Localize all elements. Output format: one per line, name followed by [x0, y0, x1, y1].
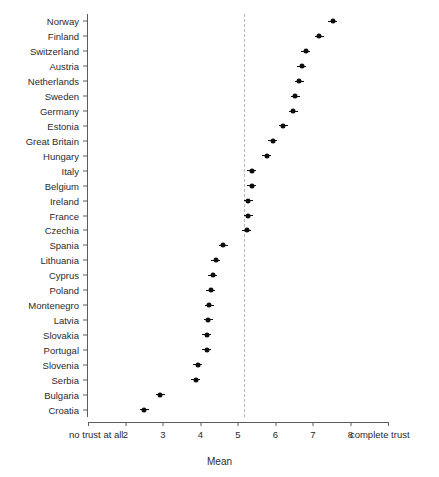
y-axis-tick	[83, 111, 87, 112]
data-point	[206, 317, 211, 322]
y-axis-label: Estonia	[47, 120, 79, 131]
x-axis-left-endcap-label: no trust at all	[69, 429, 123, 440]
y-axis-label: Slovenia	[43, 359, 79, 370]
y-axis-label: Ireland	[50, 195, 79, 206]
data-point	[213, 258, 218, 263]
y-axis-tick	[83, 305, 87, 306]
y-axis-tick	[83, 409, 87, 410]
y-axis-tick	[83, 319, 87, 320]
plot-area	[88, 14, 388, 417]
data-point	[207, 303, 212, 308]
y-axis-tick	[83, 394, 87, 395]
data-point	[193, 377, 198, 382]
y-axis-label: Poland	[49, 285, 79, 296]
y-axis-label: Slovakia	[43, 329, 79, 340]
y-axis-tick	[83, 290, 87, 291]
data-point	[244, 228, 249, 233]
y-axis-tick	[83, 260, 87, 261]
data-point	[291, 109, 296, 114]
x-axis-title: Mean	[0, 456, 439, 467]
x-axis-tick-label: 5	[235, 429, 240, 440]
y-axis-label: France	[49, 210, 79, 221]
data-point	[221, 243, 226, 248]
y-axis-label: Serbia	[52, 374, 79, 385]
y-axis-tick	[83, 215, 87, 216]
x-axis-cap-right	[388, 422, 389, 426]
y-axis-tick	[83, 36, 87, 37]
data-point	[297, 79, 302, 84]
y-axis-label: Bulgaria	[44, 389, 79, 400]
data-point	[299, 64, 304, 69]
y-axis-label: Switzerland	[30, 46, 79, 57]
y-axis-label: Czechia	[45, 225, 79, 236]
y-axis-label: Netherlands	[28, 76, 79, 87]
y-axis-label: Latvia	[54, 314, 79, 325]
y-axis-label: Finland	[48, 31, 79, 42]
x-axis-tick-label: 4	[198, 429, 203, 440]
y-axis-tick	[83, 125, 87, 126]
data-point	[195, 362, 200, 367]
x-axis-tick-label: 2	[123, 429, 128, 440]
data-point	[142, 407, 147, 412]
y-axis-label: Italy	[62, 165, 79, 176]
y-axis-tick	[83, 349, 87, 350]
x-axis-tick	[350, 422, 351, 426]
x-axis-tick	[275, 422, 276, 426]
data-point	[210, 273, 215, 278]
data-point	[249, 183, 254, 188]
y-axis-tick	[83, 185, 87, 186]
y-axis-label: Austria	[49, 61, 79, 72]
y-axis-line	[87, 14, 88, 417]
y-axis-label: Great Britain	[26, 135, 79, 146]
x-axis-line	[88, 422, 389, 423]
y-axis-label: Norway	[47, 16, 79, 27]
y-axis-label: Germany	[40, 106, 79, 117]
y-axis-label: Cyprus	[49, 270, 79, 281]
x-axis-cap-left	[88, 422, 89, 426]
y-axis-tick	[83, 155, 87, 156]
x-axis-tick	[313, 422, 314, 426]
y-axis-label: Sweden	[45, 91, 79, 102]
y-axis-tick	[83, 230, 87, 231]
y-axis-tick	[83, 140, 87, 141]
x-axis-tick	[200, 422, 201, 426]
y-axis-label: Hungary	[43, 150, 79, 161]
data-point	[246, 198, 251, 203]
y-axis-tick	[83, 379, 87, 380]
y-axis-label: Spania	[49, 240, 79, 251]
x-axis-tick-label: 6	[273, 429, 278, 440]
data-point	[249, 168, 254, 173]
x-axis-tick-label: 7	[310, 429, 315, 440]
y-axis-tick	[83, 334, 87, 335]
y-axis-tick	[83, 200, 87, 201]
y-axis-label: Belgium	[45, 180, 79, 191]
y-axis-label: Lithuania	[40, 255, 79, 266]
x-axis-tick	[238, 422, 239, 426]
data-point	[204, 347, 209, 352]
data-point	[270, 138, 275, 143]
y-axis-label: Croatia	[48, 404, 79, 415]
data-point	[281, 123, 286, 128]
y-axis-tick	[83, 51, 87, 52]
x-axis-right-endcap-label: complete trust	[350, 429, 410, 440]
data-point	[264, 153, 269, 158]
data-point	[317, 34, 322, 39]
y-axis-label: Montenegro	[28, 300, 79, 311]
data-point	[246, 213, 251, 218]
y-axis-tick	[83, 275, 87, 276]
data-point	[158, 392, 163, 397]
y-axis-tick	[83, 21, 87, 22]
x-axis-tick-label: 3	[160, 429, 165, 440]
y-axis-label: Portugal	[44, 344, 79, 355]
data-point	[303, 49, 308, 54]
y-axis-tick	[83, 66, 87, 67]
data-point	[293, 94, 298, 99]
x-axis-tick	[125, 422, 126, 426]
y-axis-tick	[83, 96, 87, 97]
dotplot-chart: NorwayFinlandSwitzerlandAustriaNetherlan…	[0, 0, 439, 477]
y-axis-tick	[83, 245, 87, 246]
y-axis-tick	[83, 81, 87, 82]
data-point	[330, 19, 335, 24]
data-point	[204, 332, 209, 337]
y-axis-tick	[83, 364, 87, 365]
